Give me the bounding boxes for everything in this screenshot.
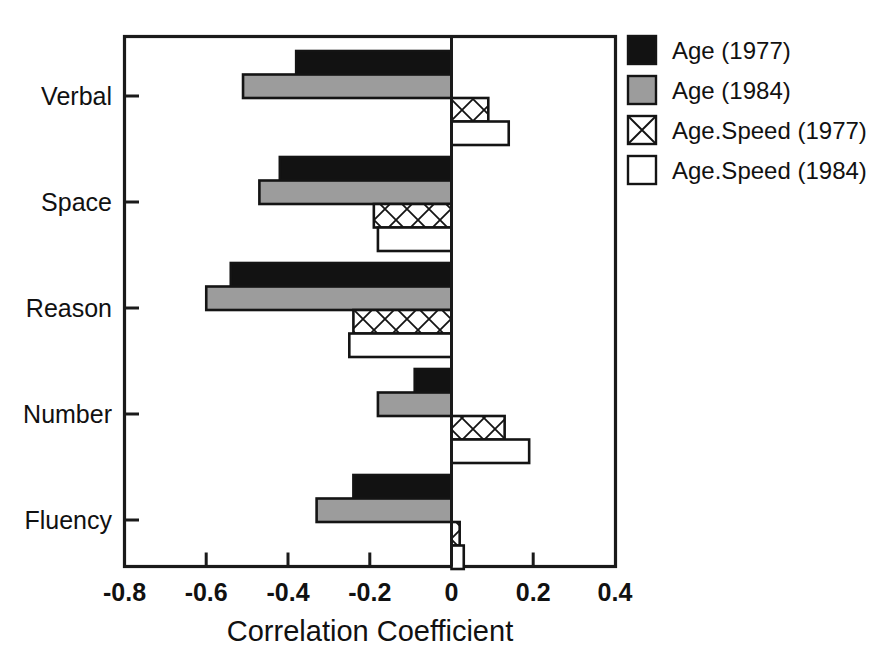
bar-rect	[349, 334, 451, 358]
bar-verbal-age_1984	[243, 75, 451, 99]
legend-label-2: Age.Speed (1977)	[672, 117, 867, 144]
chart-page: -0.8 -0.6 -0.4 -0.2 0 0.2 0.4 Correlatio…	[0, 0, 873, 669]
x-tick-label-1: -0.6	[185, 578, 228, 606]
bar-rect	[452, 440, 530, 464]
bar-space-age_1977	[280, 157, 452, 181]
bar-verbal-age_speed_1984	[452, 122, 509, 146]
category-label-verbal: Verbal	[41, 82, 112, 110]
bar-space-age_speed_1984	[378, 228, 452, 252]
x-axis-ticks	[125, 553, 616, 567]
legend: Age (1977) Age (1984) Age.Speed (1977) A…	[628, 36, 867, 184]
bar-rect	[452, 546, 464, 570]
legend-label-0: Age (1977)	[672, 37, 791, 64]
bar-rect	[353, 310, 451, 334]
bar-rect	[296, 51, 451, 75]
x-tick-label-3: -0.2	[348, 578, 391, 606]
x-tick-label-0: -0.8	[103, 578, 146, 606]
x-tick-label-4: 0	[445, 578, 459, 606]
legend-item-age-1984[interactable]: Age (1984)	[628, 76, 791, 104]
bar-fluency-age_1984	[317, 499, 452, 523]
bar-number-age_1984	[378, 393, 452, 417]
figure-container: -0.8 -0.6 -0.4 -0.2 0 0.2 0.4 Correlatio…	[0, 0, 873, 669]
bar-rect	[243, 75, 451, 99]
x-axis-title: Correlation Coefficient	[227, 615, 513, 647]
bar-fluency-age_1977	[353, 475, 451, 499]
category-label-number: Number	[23, 400, 112, 428]
legend-item-age-speed-1984[interactable]: Age.Speed (1984)	[628, 156, 867, 184]
bar-verbal-age_1977	[296, 51, 451, 75]
bar-rect	[231, 263, 452, 287]
legend-item-age-1977[interactable]: Age (1977)	[628, 36, 791, 64]
bar-rect	[353, 475, 451, 499]
x-tick-label-2: -0.4	[266, 578, 309, 606]
x-tick-labels: -0.8 -0.6 -0.4 -0.2 0 0.2 0.4	[103, 578, 633, 606]
bar-reason-age_1977	[231, 263, 452, 287]
legend-swatch-solid-gray-icon	[628, 76, 656, 104]
bar-reason-age_1984	[206, 287, 451, 311]
bar-space-age_1984	[259, 181, 451, 205]
bar-reason-age_speed_1977	[353, 310, 451, 334]
legend-swatch-solid-black-icon	[628, 36, 656, 64]
bar-fluency-age_speed_1984	[452, 546, 464, 570]
bar-number-age_1977	[415, 369, 452, 393]
bar-rect	[415, 369, 452, 393]
bar-rect	[259, 181, 451, 205]
legend-item-age-speed-1977[interactable]: Age.Speed (1977)	[628, 116, 867, 144]
x-tick-label-6: 0.4	[598, 578, 633, 606]
bar-rect	[452, 98, 489, 122]
bars-layer	[206, 51, 529, 569]
bar-rect	[378, 393, 452, 417]
bar-chart: -0.8 -0.6 -0.4 -0.2 0 0.2 0.4 Correlatio…	[0, 0, 873, 669]
legend-label-1: Age (1984)	[672, 77, 791, 104]
bar-verbal-age_speed_1977	[452, 98, 489, 122]
bar-rect	[280, 157, 452, 181]
bar-number-age_speed_1977	[452, 416, 505, 440]
category-label-reason: Reason	[26, 294, 112, 322]
bar-rect	[374, 204, 452, 228]
bar-rect	[206, 287, 451, 311]
category-label-fluency: Fluency	[24, 506, 112, 534]
bar-space-age_speed_1977	[374, 204, 452, 228]
y-axis-ticks	[125, 96, 140, 520]
x-tick-label-5: 0.2	[516, 578, 551, 606]
legend-swatch-open-icon	[628, 156, 656, 184]
category-label-space: Space	[41, 188, 112, 216]
bar-rect	[452, 122, 509, 146]
bar-number-age_speed_1984	[452, 440, 530, 464]
bar-rect	[378, 228, 452, 252]
y-axis-category-labels: Verbal Space Reason Number Fluency	[23, 82, 112, 534]
bar-rect	[452, 416, 505, 440]
legend-label-3: Age.Speed (1984)	[672, 157, 867, 184]
bar-rect	[317, 499, 452, 523]
bar-reason-age_speed_1984	[349, 334, 451, 358]
